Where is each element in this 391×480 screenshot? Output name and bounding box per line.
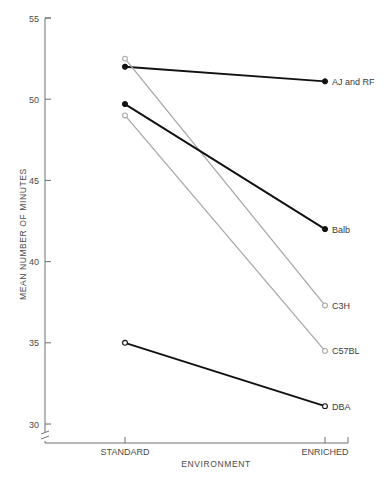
series-line	[125, 59, 325, 306]
line-chart: 303540455055 STANDARDENRICHED AJ and RFC…	[0, 0, 391, 480]
data-point-marker	[323, 404, 328, 409]
series-label-aj-and-rf: AJ and RF	[332, 77, 375, 87]
data-point-marker	[322, 79, 327, 84]
y-tick-label: 30	[29, 420, 39, 430]
series-label-dba: DBA	[332, 402, 351, 412]
series-label-c57bl: C57BL	[332, 346, 360, 356]
y-tick-label: 40	[29, 257, 39, 267]
y-tick-label: 50	[29, 95, 39, 105]
y-axis-title: MEAN NUMBER OF MINUTES	[18, 168, 28, 300]
data-point-marker	[122, 64, 127, 69]
series-line	[125, 343, 325, 406]
data-point-marker	[123, 340, 128, 345]
series-label-c3h: C3H	[332, 301, 350, 311]
series-labels: AJ and RFC3HBalbC57BLDBA	[332, 77, 375, 412]
series-label-balb: Balb	[332, 225, 350, 235]
data-point-marker	[123, 56, 128, 61]
y-axis: 303540455055	[29, 14, 51, 444]
data-point-marker	[123, 113, 128, 118]
y-tick-label: 55	[29, 14, 39, 24]
x-tick-label: STANDARD	[101, 447, 150, 457]
series-line	[125, 67, 325, 82]
data-point-marker	[122, 101, 127, 106]
y-tick-label: 35	[29, 338, 39, 348]
x-axis: STANDARDENRICHED	[45, 437, 349, 457]
x-axis-title: ENVIRONMENT	[181, 459, 250, 469]
series-line	[125, 104, 325, 229]
data-point-marker	[322, 227, 327, 232]
data-point-marker	[323, 303, 328, 308]
series-line	[125, 115, 325, 350]
y-tick-label: 45	[29, 176, 39, 186]
series-layer	[122, 56, 327, 408]
data-point-marker	[323, 349, 328, 354]
x-tick-label: ENRICHED	[301, 447, 349, 457]
chart-container: 303540455055 STANDARDENRICHED AJ and RFC…	[0, 0, 391, 480]
